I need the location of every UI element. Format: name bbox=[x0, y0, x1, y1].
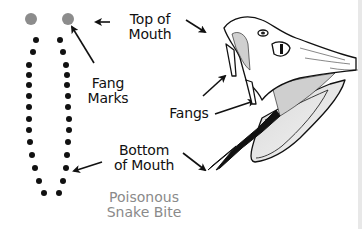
tooth-mark bbox=[64, 72, 70, 78]
tooth-mark bbox=[56, 190, 62, 196]
tooth-mark bbox=[64, 152, 70, 158]
diagram-title: Poisonous Snake Bite bbox=[102, 190, 186, 220]
bite-marks bbox=[25, 13, 74, 196]
tooth-mark bbox=[26, 72, 32, 78]
tooth-mark bbox=[33, 37, 39, 43]
snake-bite-diagram: Top of Mouth Fang Marks Fangs Bottom of … bbox=[0, 0, 362, 229]
label-fangs: Fangs bbox=[164, 106, 214, 121]
label-top-of-mouth: Top of Mouth bbox=[118, 12, 182, 42]
fang-mark bbox=[25, 13, 37, 25]
tooth-mark bbox=[64, 82, 70, 88]
tooth-mark bbox=[60, 49, 66, 55]
tooth-mark bbox=[60, 178, 66, 184]
tooth-mark bbox=[63, 165, 69, 171]
tooth-mark bbox=[30, 49, 36, 55]
tooth-mark bbox=[63, 62, 69, 68]
tooth-mark bbox=[29, 152, 35, 158]
tooth-mark bbox=[26, 116, 32, 122]
tooth-mark bbox=[41, 190, 47, 196]
tooth-mark bbox=[36, 178, 42, 184]
tooth-mark bbox=[57, 37, 63, 43]
tooth-mark bbox=[66, 127, 72, 133]
tooth-mark bbox=[26, 82, 32, 88]
tooth-mark bbox=[26, 93, 32, 99]
fang-mark bbox=[62, 13, 74, 25]
tooth-mark bbox=[65, 93, 71, 99]
label-fang-marks: Fang Marks bbox=[84, 76, 132, 106]
right-edge-border bbox=[358, 0, 362, 229]
tooth-mark bbox=[26, 104, 32, 110]
tooth-mark bbox=[65, 104, 71, 110]
tooth-mark bbox=[27, 139, 33, 145]
tooth-mark bbox=[26, 127, 32, 133]
tooth-mark bbox=[26, 62, 32, 68]
label-bottom-of-mouth: Bottom of Mouth bbox=[106, 143, 182, 173]
tooth-mark bbox=[66, 116, 72, 122]
tooth-mark bbox=[65, 139, 71, 145]
tooth-mark bbox=[32, 165, 38, 171]
snake-head-illustration bbox=[208, 17, 358, 170]
